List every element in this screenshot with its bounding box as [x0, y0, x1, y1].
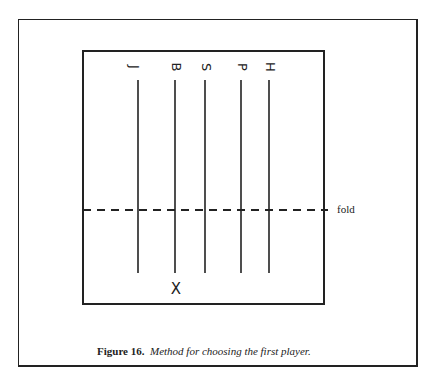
initial-j: J	[127, 64, 142, 69]
figure-caption: Figure 16. Method for choosing the first…	[97, 345, 311, 357]
player-lines	[138, 80, 269, 273]
player-initials: J B S P H	[127, 62, 278, 72]
paper-box	[83, 51, 324, 304]
ladder-diagram: J B S P H X	[0, 0, 436, 387]
initial-b: B	[169, 63, 184, 72]
initial-p: P	[235, 63, 250, 71]
initial-s: S	[199, 63, 214, 71]
x-mark: X	[171, 280, 181, 298]
fold-label: fold	[337, 203, 355, 215]
initial-h: H	[263, 62, 278, 72]
caption-text: Method for choosing the first player.	[150, 345, 311, 357]
caption-label: Figure 16.	[97, 345, 144, 357]
